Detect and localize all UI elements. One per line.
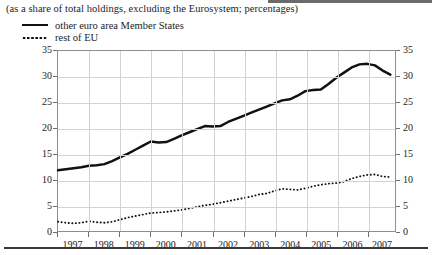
x-axis-tick-mark [306,232,307,237]
y-axis-tick-mark [53,128,57,129]
bottom-divider-rule [4,247,428,249]
y-axis-tick-label: 25 [403,96,425,107]
x-axis-tick-mark [368,232,369,237]
y-axis-tick-label: 10 [403,174,425,185]
y-axis-tick-label: 35 [403,44,425,55]
gridline-vertical [276,51,277,231]
gridline-vertical [182,51,183,231]
gridline-vertical [245,51,246,231]
x-axis-tick-mark [244,232,245,237]
gridline-vertical [120,51,121,231]
y-axis-tick-mark [53,206,57,207]
x-axis-tick-mark [57,232,58,237]
x-axis-tick-mark [337,232,338,237]
y-axis-tick-mark [53,102,57,103]
y-axis-tick-label: 35 [30,44,52,55]
gridline-vertical [151,51,152,231]
plot-container: 0055101015152020252530303535199719981999… [0,0,432,255]
x-axis-tick-mark [88,232,89,237]
gridline-vertical [369,51,370,231]
y-axis-tick-mark [396,154,400,155]
y-axis-tick-label: 15 [403,148,425,159]
x-axis-tick-mark [213,232,214,237]
y-axis-tick-mark [396,76,400,77]
y-axis-tick-mark [396,102,400,103]
y-axis-tick-label: 25 [30,96,52,107]
x-axis-tick-mark [150,232,151,237]
y-axis-tick-mark [53,154,57,155]
y-axis-tick-label: 30 [403,70,425,81]
y-axis-tick-mark [396,50,400,51]
gridline-horizontal [58,155,395,156]
y-axis-tick-label: 15 [30,148,52,159]
gridline-horizontal [58,103,395,104]
y-axis-tick-mark [396,232,400,233]
y-axis-tick-label: 10 [30,174,52,185]
y-axis-tick-mark [396,180,400,181]
plot-area [57,50,396,232]
y-axis-tick-label: 20 [403,122,425,133]
y-axis-tick-mark [53,76,57,77]
x-axis-tick-mark [119,232,120,237]
y-axis-tick-mark [53,180,57,181]
y-axis-tick-mark [396,206,400,207]
y-axis-tick-label: 5 [30,200,52,211]
y-axis-tick-label: 0 [403,226,425,237]
gridline-horizontal [58,129,395,130]
gridline-vertical [89,51,90,231]
y-axis-tick-label: 30 [30,70,52,81]
gridline-vertical [338,51,339,231]
y-axis-tick-label: 0 [30,226,52,237]
gridline-horizontal [58,181,395,182]
gridline-horizontal [58,207,395,208]
x-axis-tick-mark [181,232,182,237]
y-axis-tick-label: 5 [403,200,425,211]
x-axis-tick-mark [275,232,276,237]
series-lines [58,51,395,231]
y-axis-tick-mark [396,128,400,129]
y-axis-tick-label: 20 [30,122,52,133]
y-axis-tick-mark [53,50,57,51]
gridline-vertical [214,51,215,231]
gridline-horizontal [58,77,395,78]
gridline-vertical [307,51,308,231]
